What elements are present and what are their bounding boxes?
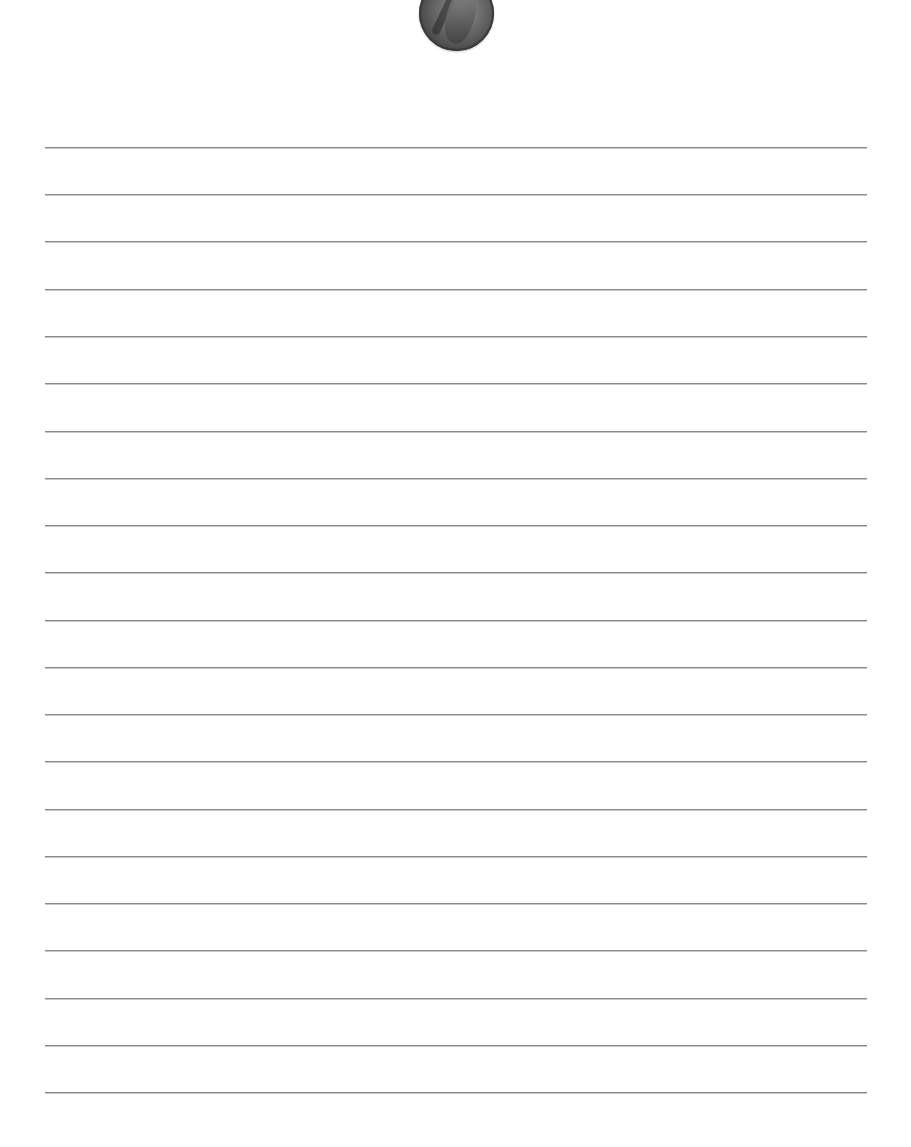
ruled-line bbox=[45, 809, 867, 811]
ruled-line bbox=[45, 714, 867, 716]
ruled-line bbox=[45, 761, 867, 763]
ruled-line bbox=[45, 525, 867, 527]
ruled-line bbox=[45, 1092, 867, 1094]
ruled-line bbox=[45, 336, 867, 338]
ruled-line bbox=[45, 950, 867, 952]
ruled-lines-area bbox=[45, 0, 867, 1147]
ruled-line bbox=[45, 856, 867, 858]
ruled-line bbox=[45, 667, 867, 669]
ruled-line bbox=[45, 572, 867, 574]
ruled-line bbox=[45, 194, 867, 196]
ruled-line bbox=[45, 241, 867, 243]
ruled-line bbox=[45, 478, 867, 480]
ruled-line bbox=[45, 289, 867, 291]
ruled-line bbox=[45, 903, 867, 905]
ruled-line bbox=[45, 431, 867, 433]
ruled-line bbox=[45, 998, 867, 1000]
ruled-line bbox=[45, 147, 867, 149]
ruled-line bbox=[45, 383, 867, 385]
ruled-line bbox=[45, 620, 867, 622]
ruled-line bbox=[45, 1045, 867, 1047]
